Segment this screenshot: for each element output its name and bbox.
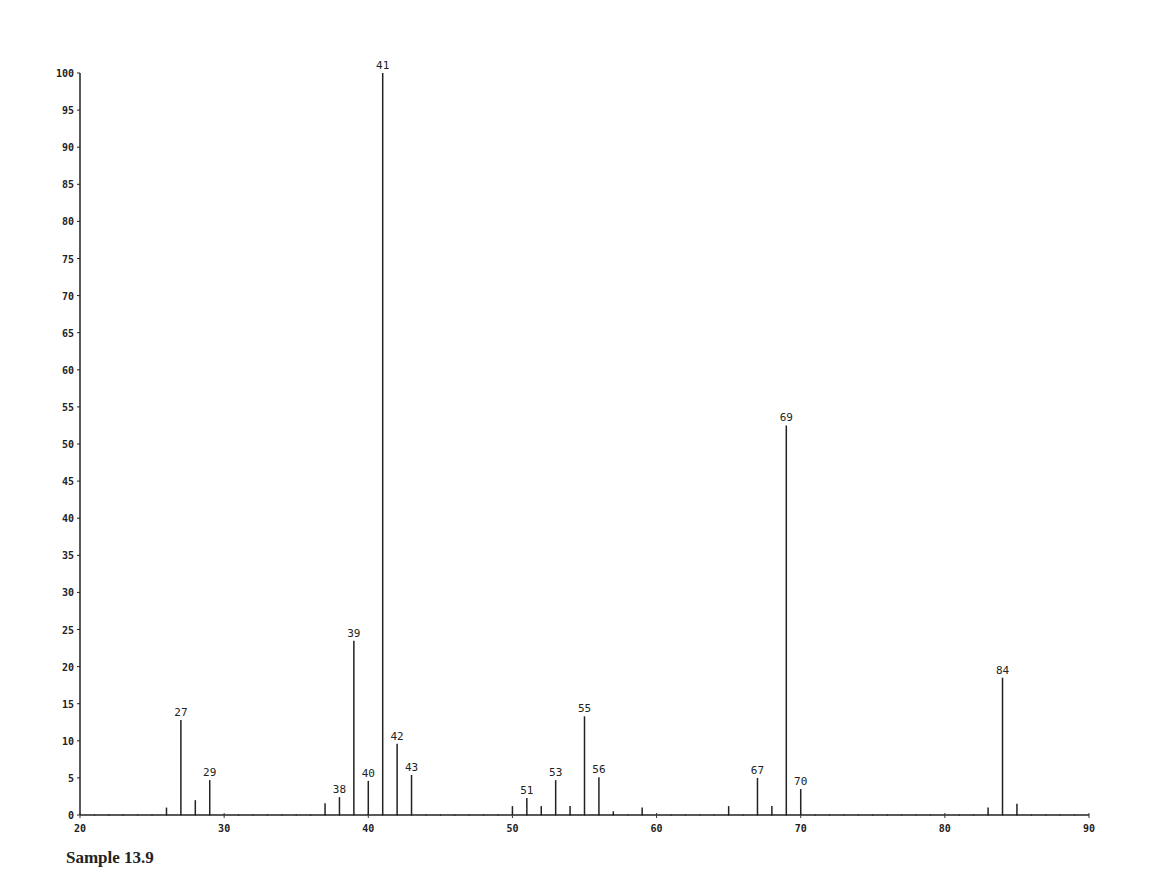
y-tick-label: 55 — [62, 402, 74, 413]
x-tick-label: 20 — [74, 823, 86, 834]
peak-label-29: 29 — [203, 766, 216, 779]
peak-label-84: 84 — [996, 664, 1010, 677]
x-tick-label: 90 — [1083, 823, 1095, 834]
y-tick-label: 20 — [62, 662, 74, 673]
peak-label-43: 43 — [405, 761, 418, 774]
y-tick-label: 90 — [62, 142, 74, 153]
figure-caption: Sample 13.9 — [66, 848, 154, 868]
y-tick-label: 95 — [62, 105, 74, 116]
peak-label-55: 55 — [578, 702, 591, 715]
y-tick-label: 15 — [62, 699, 74, 710]
y-tick-label: 10 — [62, 736, 74, 747]
y-tick-label: 100 — [56, 68, 74, 79]
peak-label-51: 51 — [520, 784, 533, 797]
peak-label-53: 53 — [549, 766, 562, 779]
y-tick-label: 5 — [68, 773, 74, 784]
y-tick-label: 40 — [62, 513, 74, 524]
y-axis: 0510152025303540455055606570758085909510… — [56, 68, 80, 821]
peaks: 27293839404142435153555667697084 — [166, 59, 1016, 815]
x-tick-label: 80 — [939, 823, 951, 834]
y-tick-label: 80 — [62, 216, 74, 227]
x-axis: 2030405060708090 — [74, 813, 1095, 834]
y-tick-label: 35 — [62, 550, 74, 561]
peak-label-41: 41 — [376, 59, 389, 72]
peak-label-39: 39 — [347, 627, 360, 640]
mass-spectrum-chart: 0510152025303540455055606570758085909510… — [0, 0, 1161, 885]
x-tick-label: 60 — [651, 823, 663, 834]
x-tick-label: 30 — [218, 823, 230, 834]
y-tick-label: 50 — [62, 439, 74, 450]
y-tick-label: 30 — [62, 587, 74, 598]
peak-label-67: 67 — [751, 764, 764, 777]
peak-label-69: 69 — [780, 411, 793, 424]
peak-label-40: 40 — [362, 767, 375, 780]
peak-label-70: 70 — [794, 775, 807, 788]
y-tick-label: 45 — [62, 476, 74, 487]
peak-label-42: 42 — [390, 730, 403, 743]
y-tick-label: 75 — [62, 254, 74, 265]
y-tick-label: 65 — [62, 328, 74, 339]
y-tick-label: 60 — [62, 365, 74, 376]
peak-label-56: 56 — [592, 763, 605, 776]
y-tick-label: 85 — [62, 179, 74, 190]
peak-label-38: 38 — [333, 783, 346, 796]
y-tick-label: 0 — [68, 810, 74, 821]
x-tick-label: 70 — [795, 823, 807, 834]
x-tick-label: 50 — [506, 823, 518, 834]
y-tick-label: 70 — [62, 291, 74, 302]
y-tick-label: 25 — [62, 625, 74, 636]
x-tick-label: 40 — [362, 823, 374, 834]
peak-label-27: 27 — [174, 706, 187, 719]
